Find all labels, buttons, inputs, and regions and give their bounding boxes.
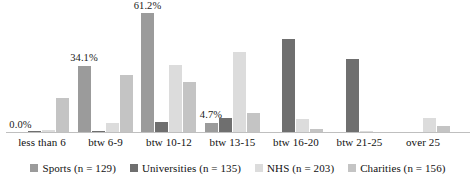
bar-nhs-6[interactable] (423, 6, 436, 132)
bar-universities-3[interactable] (219, 6, 232, 132)
bar-nhs-0[interactable] (42, 6, 55, 132)
bar-rect (282, 39, 295, 132)
bar-charities-2[interactable] (183, 6, 196, 132)
legend-swatch-icon (255, 164, 263, 172)
legend-swatch-icon (130, 164, 138, 172)
bar-rect (183, 82, 196, 132)
bar-universities-4[interactable] (282, 6, 295, 132)
bar-group: 34.1% (78, 6, 134, 132)
bar-rect (106, 123, 119, 132)
bar-group (268, 6, 324, 132)
bar-rect (56, 98, 69, 132)
bar-group: 61.2% (141, 6, 197, 132)
legend-label: Charities (n = 156) (360, 162, 445, 174)
bar-sports-4[interactable] (268, 6, 281, 132)
bar-rect (205, 123, 218, 132)
bar-rect (120, 75, 133, 132)
bar-nhs-1[interactable] (106, 6, 119, 132)
legend-swatch-icon (30, 164, 38, 172)
bar-nhs-5[interactable] (360, 6, 373, 132)
bar-sports-2[interactable]: 61.2% (141, 6, 154, 132)
bar-charities-4[interactable] (310, 6, 323, 132)
bar-charities-1[interactable] (120, 6, 133, 132)
bar-nhs-3[interactable] (233, 6, 246, 132)
x-tick-label-6: over 25 (385, 135, 461, 150)
bar-sports-5[interactable] (332, 6, 345, 132)
legend-label: Sports (n = 129) (42, 162, 116, 174)
bar-rect (296, 119, 309, 132)
legend-swatch-icon (348, 164, 356, 172)
bar-universities-6[interactable] (409, 6, 422, 132)
bar-group (395, 6, 451, 132)
x-axis-tick-labels: less than 6btw 6-9btw 10-12btw 13-15btw … (0, 135, 476, 151)
bar-rect (346, 59, 359, 132)
bar-sports-1[interactable]: 34.1% (78, 6, 91, 132)
legend-label: NHS (n = 203) (267, 162, 334, 174)
bar-group: 4.7% (205, 6, 261, 132)
bar-rect (141, 13, 154, 132)
bar-rect (169, 65, 182, 132)
bar-nhs-4[interactable] (296, 6, 309, 132)
bar-rect (155, 122, 168, 132)
bar-rect (219, 118, 232, 132)
bar-group (332, 6, 388, 132)
bar-charities-6[interactable] (437, 6, 450, 132)
legend-item-nhs[interactable]: NHS (n = 203) (255, 162, 334, 174)
bar-charities-0[interactable] (56, 6, 69, 132)
bar-sports-6[interactable] (395, 6, 408, 132)
grouped-bar-chart: 0.0%34.1%61.2%4.7% less than 6btw 6-9btw… (0, 0, 476, 184)
legend-item-sports[interactable]: Sports (n = 129) (30, 162, 116, 174)
bar-universities-2[interactable] (155, 6, 168, 132)
bar-charities-5[interactable] (374, 6, 387, 132)
bar-group: 0.0% (14, 6, 70, 132)
legend-item-charities[interactable]: Charities (n = 156) (348, 162, 445, 174)
bar-nhs-2[interactable] (169, 6, 182, 132)
plot-area: 0.0%34.1%61.2%4.7% (0, 6, 476, 132)
bar-universities-5[interactable] (346, 6, 359, 132)
legend-label: Universities (n = 135) (142, 162, 241, 174)
bar-charities-3[interactable] (247, 6, 260, 132)
bar-universities-0[interactable] (28, 6, 41, 132)
bar-rect (233, 52, 246, 132)
bar-universities-1[interactable] (92, 6, 105, 132)
bar-rect (423, 118, 436, 132)
bar-sports-0[interactable]: 0.0% (14, 6, 27, 132)
bar-rect (78, 66, 91, 132)
chart-legend: Sports (n = 129)Universities (n = 135)NH… (0, 159, 476, 177)
bar-rect (247, 113, 260, 132)
x-axis-line (6, 132, 470, 133)
legend-item-universities[interactable]: Universities (n = 135) (130, 162, 241, 174)
bar-sports-3[interactable]: 4.7% (205, 6, 218, 132)
